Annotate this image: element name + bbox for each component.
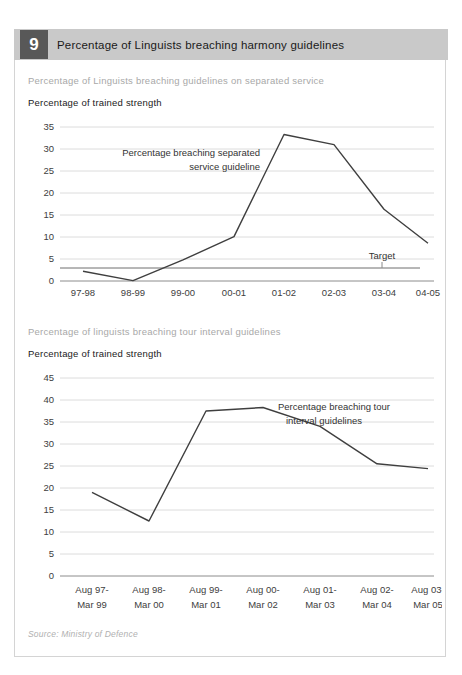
chart2-x-tick-labels: Aug 97- Mar 99 Aug 98- Mar 00 Aug 99- Ma… (75, 584, 442, 610)
chart2-annotation-line2: interval guidelines (286, 415, 362, 426)
chart2-xtick-1-bottom: Mar 00 (134, 599, 164, 610)
chart1-xtick-2: 99-00 (171, 287, 195, 298)
chart1-xtick-4: 01-02 (272, 287, 296, 298)
chart1-target-label: Target (369, 250, 396, 261)
chart1-xtick-3: 00-01 (222, 287, 246, 298)
chart1-y-tick-labels: 35 30 25 20 15 10 5 0 (43, 121, 54, 286)
chart1-xtick-1: 98-99 (121, 287, 145, 298)
chart1-ytick-25: 25 (43, 165, 54, 176)
chart2-subtitle: Percentage of linguists breaching tour i… (28, 326, 281, 337)
chart2-series-line (92, 408, 428, 522)
chart2-annotation-line1: Percentage breaching tour (278, 401, 390, 412)
chart2-xtick-2-bottom: Mar 01 (191, 599, 221, 610)
chart2-ytick-20: 20 (43, 482, 54, 493)
page-title: Percentage of Linguists breaching harmon… (57, 29, 344, 60)
chart2-xtick-3-top: Aug 00- (246, 584, 279, 595)
chart1-ytick-30: 30 (43, 143, 54, 154)
chart1-ytick-20: 20 (43, 187, 54, 198)
chart2-y-tick-labels: 45 40 35 30 25 20 15 10 5 0 (43, 372, 54, 581)
chart2-ytick-45: 45 (43, 372, 54, 383)
chart2-xtick-6-top: Aug 03- (411, 584, 442, 595)
figure-number-badge: 9 (20, 30, 48, 59)
chart1-xtick-7: 04-05 (416, 287, 440, 298)
chart2-svg: 45 40 35 30 25 20 15 10 5 0 Aug 97- Mar … (24, 370, 442, 615)
chart1-ytick-15: 15 (43, 209, 54, 220)
chart1-xtick-0: 97-98 (71, 287, 95, 298)
chart2-ytick-5: 5 (49, 548, 54, 559)
figure-page: 9 Percentage of Linguists breaching harm… (0, 0, 462, 675)
chart2-xtick-5-bottom: Mar 04 (362, 599, 392, 610)
chart1-ytick-0: 0 (49, 275, 54, 286)
source-note: Source: Ministry of Defence (28, 629, 138, 639)
chart2-xtick-4-bottom: Mar 03 (305, 599, 335, 610)
chart1-annotation-line1: Percentage breaching separated (122, 147, 260, 158)
chart1-ytick-5: 5 (49, 253, 54, 264)
chart2-y-axis-title: Percentage of trained strength (28, 348, 162, 359)
chart1-svg: 35 30 25 20 15 10 5 0 97-98 98-99 99-00 … (24, 118, 442, 300)
chart1-xtick-6: 03-04 (372, 287, 396, 298)
chart1-y-axis-title: Percentage of trained strength (28, 97, 162, 108)
chart2-ytick-30: 30 (43, 438, 54, 449)
chart1-x-tick-labels: 97-98 98-99 99-00 00-01 01-02 02-03 03-0… (71, 287, 440, 298)
chart2-ytick-25: 25 (43, 460, 54, 471)
chart2-ytick-35: 35 (43, 416, 54, 427)
chart2-ytick-10: 10 (43, 526, 54, 537)
chart2-xtick-1-top: Aug 98- (132, 584, 165, 595)
chart2-ytick-15: 15 (43, 504, 54, 515)
chart1-xtick-5: 02-03 (322, 287, 346, 298)
chart1-plot: 35 30 25 20 15 10 5 0 97-98 98-99 99-00 … (24, 118, 442, 300)
chart1-ytick-10: 10 (43, 231, 54, 242)
chart2-xtick-2-top: Aug 99- (189, 584, 222, 595)
chart1-subtitle: Percentage of Linguists breaching guidel… (28, 75, 324, 86)
chart2-xtick-0-top: Aug 97- (75, 584, 108, 595)
chart2-xtick-3-bottom: Mar 02 (248, 599, 278, 610)
chart2-plot: 45 40 35 30 25 20 15 10 5 0 Aug 97- Mar … (24, 370, 442, 615)
chart1-annotation-line2: service guideline (189, 161, 260, 172)
chart2-ytick-40: 40 (43, 394, 54, 405)
chart2-xtick-0-bottom: Mar 99 (77, 599, 107, 610)
chart2-xtick-6-bottom: Mar 05 (413, 599, 442, 610)
chart2-ytick-0: 0 (49, 570, 54, 581)
chart2-xtick-4-top: Aug 01- (303, 584, 336, 595)
chart2-xtick-5-top: Aug 02- (360, 584, 393, 595)
chart1-ytick-35: 35 (43, 121, 54, 132)
